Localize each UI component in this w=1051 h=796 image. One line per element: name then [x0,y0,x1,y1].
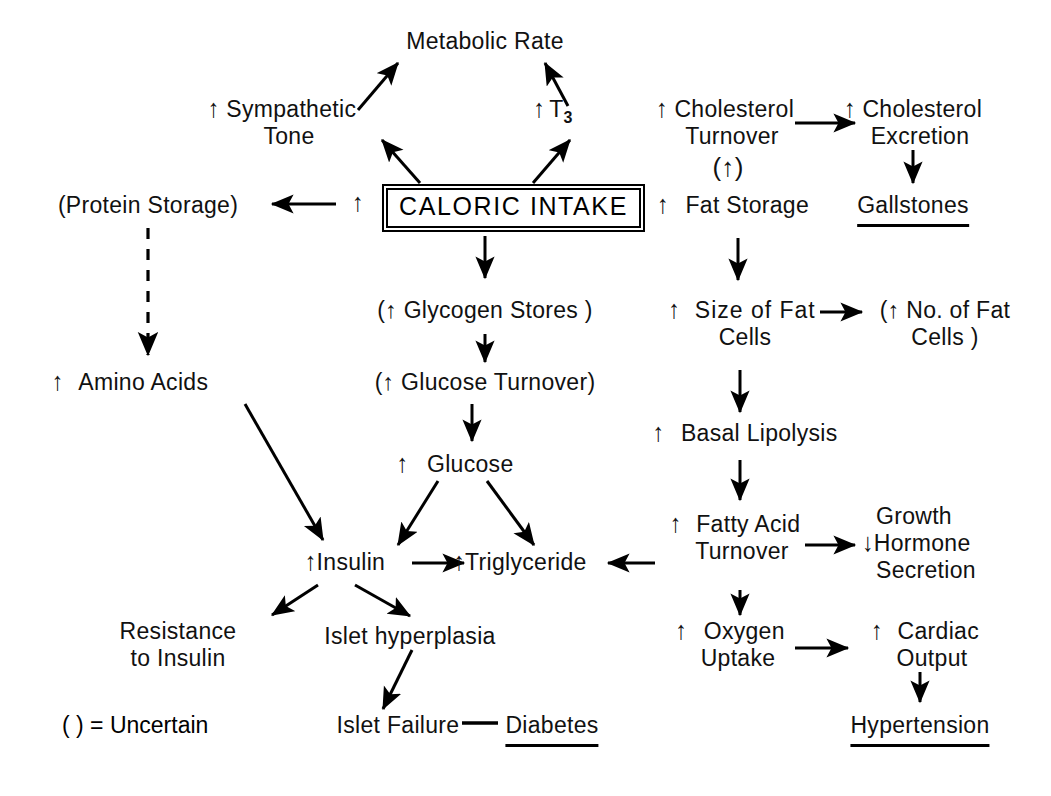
node-glucose: ↑ Glucose [397,451,514,478]
edge-insulin-to-islet-hyperplasia [355,585,410,616]
caloric-intake-label: CALORIC INTAKE [399,192,628,220]
node-cholesterol-turnover: ↑ Cholesterol Turnover [656,96,794,150]
node-sympathetic-tone: ↑ Sympathetic Tone [208,96,356,150]
node-cardiac-output: ↑ Cardiac Output [871,618,979,672]
up-arrow-icon: ↑ [657,190,669,220]
up-arrow-icon: ↑ [397,449,409,479]
down-arrow-icon: ↓ [862,528,874,558]
edge-caloric-to-sympathetic [382,140,420,183]
edge-caloric-to-t3 [533,140,570,183]
up-arrow-icon: ↑ [656,94,668,124]
caloric-intake-up-arrow-icon: ↑ [352,190,364,217]
up-arrow-icon: ↑ [670,509,682,539]
node-protein-storage: (Protein Storage) [58,192,238,219]
edge-insulin-to-resistance [272,585,318,615]
node-hypertension: Hypertension [850,712,989,747]
node-gallstones: Gallstones [857,192,969,227]
node-cholesterol-turnover-uncertain: (↑) [712,152,743,183]
up-arrow-icon: ↑ [844,94,856,124]
node-amino-acids: ↑ Amino Acids [52,369,208,396]
node-growth-hormone-secretion: Growth ↓Hormone Secretion [862,503,976,584]
node-resistance-to-insulin: Resistance to Insulin [120,618,237,672]
up-arrow-icon: ↑ [305,547,317,577]
edge-glucose-to-insulin [398,481,438,545]
node-islet-hyperplasia: Islet hyperplasia [324,623,495,650]
up-arrow-icon: ↑ [208,94,220,124]
node-glycogen-stores: (↑ Glycogen Stores ) [377,297,593,324]
node-basal-lipolysis: ↑ Basal Lipolysis [652,420,837,447]
edge-amino-acids-to-insulin [245,404,323,540]
up-arrow-icon: ↑ [871,616,883,646]
up-arrow-icon: ↑ [453,547,465,577]
node-fat-storage: ↑ Fat Storage [657,192,809,219]
edge-islet-hyperplasia-to-failure [383,650,412,709]
edge-glucose-to-triglyceride [487,481,534,545]
diagram-canvas: Metabolic Rate ↑ Sympathetic Tone ↑T3 ↑ … [0,0,1051,796]
node-oxygen-uptake: ↑ Oxygen Uptake [675,618,785,672]
node-triglyceride: ↑Triglyceride [453,549,586,576]
node-islet-failure: Islet Failure [337,712,460,739]
node-metabolic-rate: Metabolic Rate [406,28,564,55]
node-diabetes: Diabetes [505,712,598,747]
node-insulin: ↑Insulin [305,549,385,576]
node-t3: ↑T3 [533,96,572,127]
node-size-of-fat-cells: ↑ Size of Fat Cells [668,297,815,351]
node-fatty-acid-turnover: ↑ Fatty Acid Turnover [670,511,801,565]
node-caloric-intake: CALORIC INTAKE [382,184,645,232]
up-arrow-icon: ↑ [668,295,680,325]
up-arrow-icon: ↑ [52,367,64,397]
legend-uncertain: ( ) = Uncertain [62,712,208,739]
node-cholesterol-excretion: ↑ Cholesterol Excretion [844,96,982,150]
up-arrow-icon: ↑ [533,94,545,124]
up-arrow-icon: ↑ [675,616,687,646]
up-arrow-icon: ↑ [652,418,664,448]
node-glucose-turnover: (↑ Glucose Turnover) [375,369,596,396]
node-no-of-fat-cells: (↑ No. of Fat Cells ) [880,297,1010,351]
edge-sympathetic-to-metabolic [358,63,398,110]
